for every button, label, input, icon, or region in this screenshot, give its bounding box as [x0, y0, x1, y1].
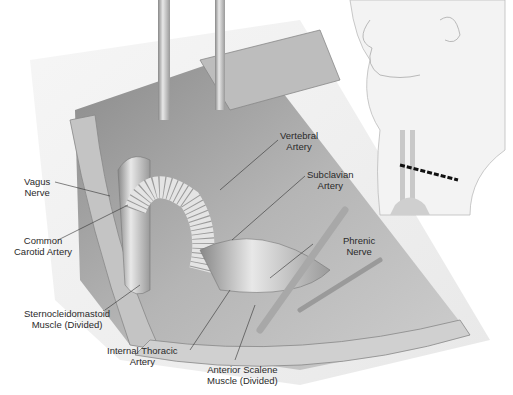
- illustration: [0, 0, 513, 395]
- label-subclavian-artery: SubclavianArtery: [307, 169, 353, 191]
- label-vagus-nerve: VagusNerve: [24, 176, 50, 198]
- label-vertebral-artery: VertebralArtery: [280, 130, 318, 152]
- label-phrenic-nerve: PhrenicNerve: [343, 235, 375, 257]
- label-common-carotid-artery: CommonCarotid Artery: [14, 235, 72, 257]
- label-anterior-scalene-muscle: Anterior ScaleneMuscle (Divided): [207, 364, 278, 386]
- label-sternocleidomastoid-muscle: SternocleidomastoidMuscle (Divided): [24, 308, 110, 330]
- label-internal-thoracic-artery: Internal ThoracicArtery: [107, 345, 178, 367]
